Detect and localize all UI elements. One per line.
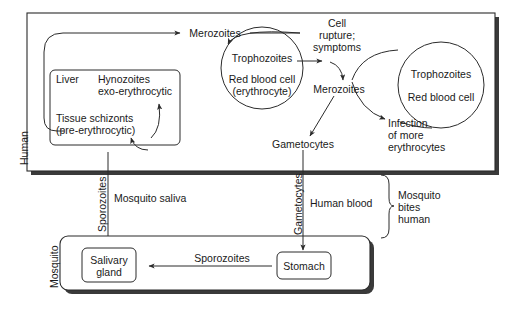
mosquito-saliva-label: Mosquito saliva <box>114 192 186 205</box>
salivary-gland-label-line1: Salivary <box>90 254 127 267</box>
tissue-schizonts-label-line2: (pre-erythrocytic) <box>56 124 135 137</box>
right-cell-stage-label: Trophozoites <box>411 68 471 81</box>
sporozoites-transmission-label: Sporozoites <box>96 177 108 232</box>
human-compartment-label: Human <box>18 131 30 165</box>
hypnozoites-label-line2: exo-erythrocytic <box>98 85 172 98</box>
reinfection-label-line1: Infection <box>388 117 428 130</box>
mosquito-compartment-label: Mosquito <box>48 245 60 288</box>
cell-rupture-label-line2: rupture; <box>319 29 355 42</box>
reinfection-label-line2: of more <box>388 129 424 142</box>
tissue-schizonts-label-line1: Tissue schizonts <box>56 112 133 125</box>
mosquito-bites-human-line1: Mosquito <box>398 189 441 202</box>
stomach-label: Stomach <box>283 260 324 273</box>
right-cell-host-label: Red blood cell <box>408 91 475 104</box>
sporozoites-mosquito-arrow-label: Sporozoites <box>194 252 249 265</box>
mosquito-bites-human-line2: bites <box>398 201 420 214</box>
red-blood-cell-right <box>398 42 484 128</box>
reinfection-label-line3: erythrocytes <box>388 141 445 154</box>
mosquito-bites-human-brace <box>381 175 394 238</box>
left-cell-stage-label: Trophozoites <box>232 52 292 65</box>
left-cell-host-label-line1: Red blood cell <box>229 73 296 86</box>
left-cell-host-label-line2: (erythrocyte) <box>233 85 292 98</box>
salivary-gland-label-line2: gland <box>96 266 122 279</box>
merozoites-mid-label: Merozoites <box>313 83 364 96</box>
gametocytes-transmission-label: Gametocytes <box>292 173 304 235</box>
human-blood-label: Human blood <box>310 197 372 210</box>
hypnozoites-label-line1: Hynozoites <box>98 73 150 86</box>
gametocytes-label: Gametocytes <box>272 138 334 151</box>
diagram-vector-layer <box>0 0 515 310</box>
mosquito-bites-human-line3: human <box>398 213 430 226</box>
cell-rupture-label-line3: symptoms <box>313 41 361 54</box>
malaria-life-cycle-diagram: Human Mosquito Merozoites Liver Hynozoit… <box>0 0 515 310</box>
liver-organ-label: Liver <box>56 73 79 86</box>
cell-rupture-label-line1: Cell <box>328 17 346 30</box>
merozoites-top-label: Merozoites <box>189 27 240 40</box>
